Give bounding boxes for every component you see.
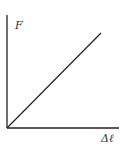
data-line [7,33,101,128]
x-axis-label: Δℓ [101,132,114,145]
y-axis-label: F [15,19,23,32]
